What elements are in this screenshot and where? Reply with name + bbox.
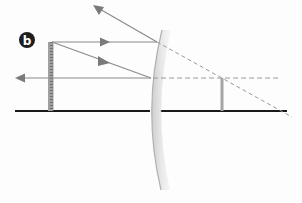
reflected-ray-diverging [93, 5, 157, 42]
reflected-ray-parallel [15, 74, 151, 83]
virtual-extension-focus [157, 42, 292, 117]
arrow-down-right-icon [98, 56, 110, 66]
arrow-left-icon [15, 74, 25, 83]
object-ruler [48, 42, 53, 111]
virtual-image [221, 78, 224, 111]
panel-label: b [23, 34, 32, 48]
panel-label-badge: b [19, 32, 35, 48]
incident-ray-focal [52, 42, 151, 78]
ray-diagram: b [0, 0, 302, 203]
arrow-right-icon [100, 38, 110, 47]
incident-ray-parallel [52, 38, 157, 47]
